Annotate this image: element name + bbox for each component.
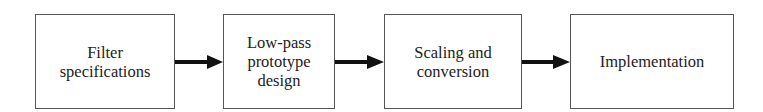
arrow-3 (522, 55, 570, 69)
arrow-2 (335, 55, 384, 69)
connector-arrows (0, 0, 763, 112)
arrow-1 (175, 55, 223, 69)
